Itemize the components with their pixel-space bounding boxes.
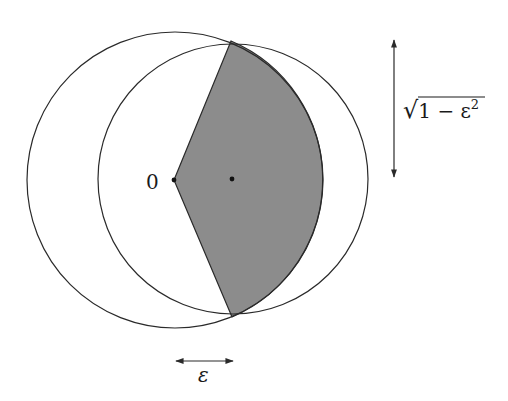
shaded-region <box>174 41 323 317</box>
epsilon-label: ε <box>198 363 209 387</box>
origin-label: 0 <box>146 170 159 194</box>
origin-point <box>172 178 177 183</box>
height-label: √1 − ε2 <box>403 96 479 124</box>
diagram-canvas: 0 √1 − ε2 ε <box>0 0 508 401</box>
center-point <box>230 177 235 182</box>
